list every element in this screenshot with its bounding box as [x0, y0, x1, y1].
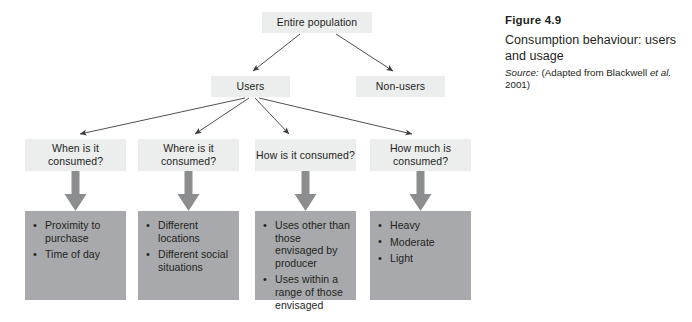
block-arrow-3	[295, 171, 317, 211]
detail-list: Heavy Moderate Light	[377, 219, 466, 265]
block-arrow-2	[178, 171, 200, 211]
edge-users-to-q3	[255, 98, 289, 134]
list-item: Heavy	[377, 219, 466, 232]
list-item: Proximity to purchase	[32, 219, 121, 244]
list-item: Different social situations	[145, 248, 234, 273]
list-item: Light	[377, 252, 466, 265]
panel-how-much-details: Heavy Moderate Light	[370, 211, 471, 300]
panel-how-details: Uses other than those envisaged by produ…	[255, 211, 356, 300]
list-item: Moderate	[377, 236, 466, 249]
node-question-how-much: How much is consumed?	[370, 139, 471, 171]
source-close: 2001)	[505, 79, 530, 90]
detail-list: Different locations Different social sit…	[145, 219, 234, 273]
edge-users-to-q1	[80, 98, 245, 134]
node-users: Users	[211, 76, 290, 97]
block-arrow-1	[65, 171, 87, 211]
edge-users-to-q4	[259, 98, 412, 134]
source-open: (Adapted from Blackwell	[542, 67, 648, 78]
source-etal: et al.	[650, 67, 671, 78]
block-arrow-4	[410, 171, 432, 211]
list-item: Uses other than those envisaged by produ…	[262, 219, 351, 269]
node-question-where: Where is it consumed?	[138, 139, 239, 171]
edge-root-to-nonusers	[336, 34, 393, 71]
source-label: Source:	[505, 67, 539, 78]
figure-caption: Figure 4.9 Consumption behaviour: users …	[505, 13, 687, 91]
figure-canvas: Entire population Users Non-users When i…	[0, 0, 692, 322]
node-entire-population: Entire population	[262, 12, 372, 33]
detail-list: Uses other than those envisaged by produ…	[262, 219, 351, 311]
panel-when-details: Proximity to purchase Time of day	[25, 211, 126, 300]
node-question-when: When is it consumed?	[25, 139, 126, 171]
figure-source: Source: (Adapted from Blackwell et al. 2…	[505, 67, 687, 91]
node-non-users: Non-users	[356, 76, 445, 97]
detail-list: Proximity to purchase Time of day	[32, 219, 121, 261]
figure-title: Consumption behaviour: users and usage	[505, 33, 687, 64]
edge-users-to-q2	[195, 98, 249, 134]
block-arrow-group	[65, 171, 432, 211]
figure-number: Figure 4.9	[505, 13, 687, 28]
panel-where-details: Different locations Different social sit…	[138, 211, 239, 300]
edge-root-to-users	[253, 34, 300, 71]
list-item: Uses within a range of those envisaged	[262, 273, 351, 311]
node-question-how: How is it consumed?	[255, 139, 356, 171]
list-item: Time of day	[32, 248, 121, 261]
list-item: Different locations	[145, 219, 234, 244]
